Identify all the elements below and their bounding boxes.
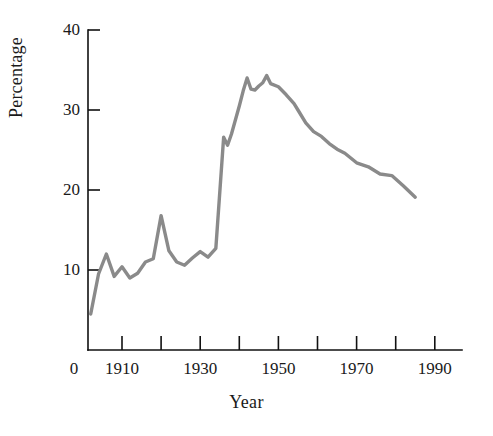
x-tick-label-1970: 1970 <box>327 360 387 377</box>
data-series-line <box>91 76 416 314</box>
y-tick-label-20: 20 <box>40 181 80 198</box>
x-axis-ticks <box>122 336 435 350</box>
y-tick-label-40: 40 <box>40 21 80 38</box>
chart-container: 10203040 019101930195019701990 Percentag… <box>0 0 493 436</box>
y-tick-label-30: 30 <box>40 101 80 118</box>
y-axis-ticks <box>88 30 100 270</box>
x-tick-label-1910: 1910 <box>92 360 152 377</box>
y-tick-label-10: 10 <box>40 261 80 278</box>
x-tick-label-1930: 1930 <box>170 360 230 377</box>
x-tick-label-1950: 1950 <box>248 360 308 377</box>
x-axis-title: Year <box>0 392 493 413</box>
y-axis-title: Percentage <box>6 0 28 118</box>
x-tick-label-1990: 1990 <box>405 360 465 377</box>
